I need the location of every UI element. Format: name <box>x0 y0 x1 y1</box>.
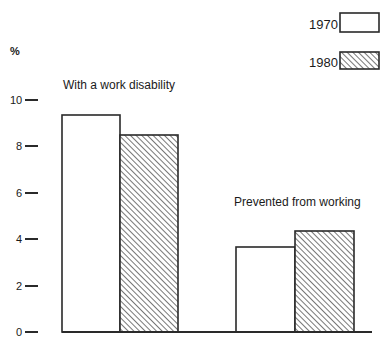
y-tick-label: 0 <box>16 326 22 338</box>
y-tick-label: 10 <box>10 94 22 106</box>
y-tick-label: 4 <box>16 233 22 245</box>
y-tick-label: 6 <box>16 187 22 199</box>
bar-1970-work-disability <box>62 115 120 332</box>
legend-swatch-1980 <box>340 52 379 69</box>
legend-swatch-1970 <box>340 13 379 32</box>
bar-group-prevented-from-working <box>236 231 354 332</box>
y-tick-label: 2 <box>16 280 22 292</box>
legend-label-1980: 1980 <box>309 55 338 70</box>
bar-chart: % 10 8 6 4 2 0 With a work disability Pr… <box>0 0 391 348</box>
group-label-prevented-from-working: Prevented from working <box>234 195 361 209</box>
bar-1980-prevented <box>295 231 354 332</box>
y-axis-unit: % <box>10 45 20 57</box>
group-label-work-disability: With a work disability <box>63 78 175 92</box>
y-tick-label: 8 <box>16 140 22 152</box>
bar-group-work-disability <box>62 115 178 332</box>
bar-1970-prevented <box>236 247 295 332</box>
y-axis: 10 8 6 4 2 0 <box>10 94 38 338</box>
bar-1980-work-disability <box>120 135 178 332</box>
legend-label-1970: 1970 <box>309 17 338 32</box>
legend: 1970 1980 <box>309 13 379 70</box>
